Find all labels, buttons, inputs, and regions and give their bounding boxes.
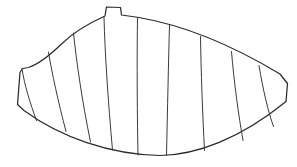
pattern-drawing-canvas bbox=[0, 0, 297, 167]
pattern-drawing-svg bbox=[0, 0, 297, 167]
